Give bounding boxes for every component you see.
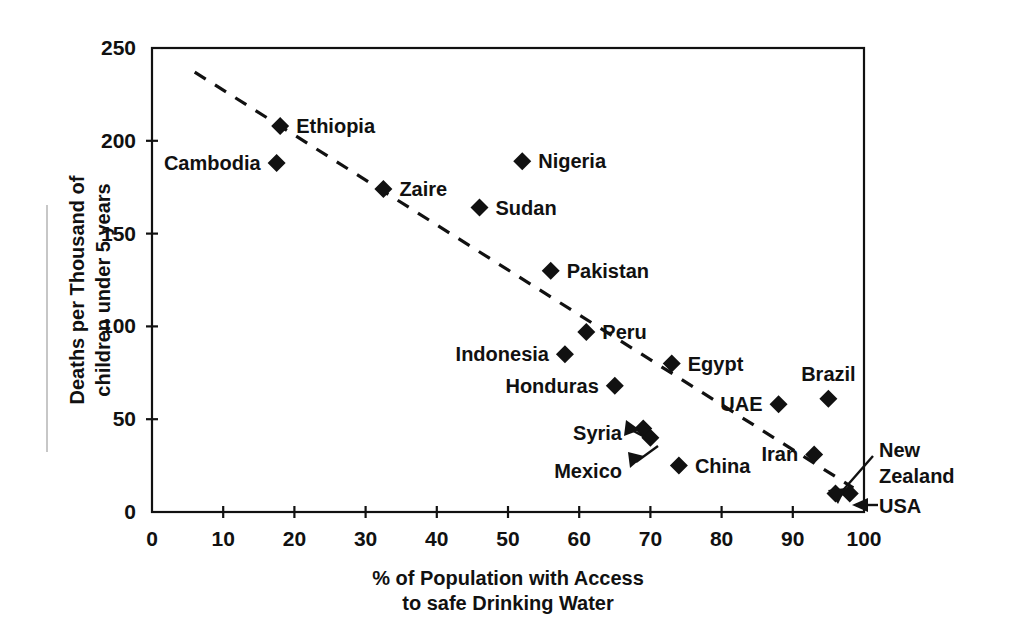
x-tick-label-80: 80	[710, 527, 733, 550]
usa-arrowhead	[852, 498, 868, 512]
data-point-marker	[577, 323, 595, 341]
data-point-label-uae: UAE	[720, 393, 762, 415]
data-point-label-mexico: Mexico	[554, 460, 622, 482]
plot-frame	[152, 48, 864, 512]
x-tick-label-60: 60	[568, 527, 591, 550]
data-point-labels: EthiopiaCambodiaNigeriaZaireSudanPakista…	[164, 115, 856, 482]
trend-line	[195, 72, 854, 488]
x-tick-label-40: 40	[425, 527, 448, 550]
y-axis-title-line2: children under 5 years	[92, 183, 114, 396]
y-axis-title-line1: Deaths per Thousand of	[66, 175, 88, 404]
data-point-label-indonesia: Indonesia	[456, 343, 550, 365]
data-point-label-honduras: Honduras	[505, 375, 598, 397]
y-tick-label-200: 200	[101, 129, 136, 152]
x-tick-label-90: 90	[781, 527, 804, 550]
data-point-label-cambodia: Cambodia	[164, 152, 262, 174]
y-tick-label-250: 250	[101, 36, 136, 59]
data-point-label-ethiopia: Ethiopia	[296, 115, 376, 137]
data-point-marker	[513, 152, 531, 170]
label-new-zealand-line1: New	[879, 439, 921, 461]
data-point-marker	[670, 457, 688, 475]
label-new-zealand-line2: Zealand	[879, 465, 955, 487]
data-point-label-sudan: Sudan	[496, 197, 557, 219]
y-tick-label-0: 0	[124, 500, 136, 523]
data-point-marker	[556, 345, 574, 363]
data-point-marker	[819, 390, 837, 408]
data-point-label-china: China	[695, 455, 751, 477]
data-point-label-pakistan: Pakistan	[567, 260, 649, 282]
data-point-label-iran: Iran	[761, 443, 798, 465]
label-usa: USA	[879, 495, 921, 517]
x-tick-label-20: 20	[283, 527, 306, 550]
data-point-label-egypt: Egypt	[688, 353, 744, 375]
label-leader-arrows	[624, 420, 878, 512]
data-point-label-nigeria: Nigeria	[538, 150, 607, 172]
data-point-marker	[542, 262, 560, 280]
x-tick-label-30: 30	[354, 527, 377, 550]
data-point-label-brazil: Brazil	[801, 363, 855, 385]
data-point-label-peru: Peru	[602, 321, 646, 343]
data-point-marker	[770, 395, 788, 413]
x-tick-label-10: 10	[212, 527, 235, 550]
data-point-marker	[841, 484, 859, 502]
data-point-label-zaire: Zaire	[399, 178, 447, 200]
x-tick-label-70: 70	[639, 527, 662, 550]
x-axis-title-line2: to safe Drinking Water	[402, 592, 614, 614]
data-point-marker	[374, 180, 392, 198]
scatter-plot: 050100150200250 0102030405060708090100 E…	[0, 0, 1011, 640]
x-tick-label-0: 0	[146, 527, 158, 550]
x-axis-title-line1: % of Population with Access	[372, 567, 644, 589]
data-point-marker	[606, 377, 624, 395]
data-point-marker	[471, 199, 489, 217]
data-point-marker	[271, 117, 289, 135]
data-point-label-syria: Syria	[573, 422, 623, 444]
y-tick-label-50: 50	[113, 407, 136, 430]
chart-figure: 050100150200250 0102030405060708090100 E…	[0, 0, 1011, 640]
mexico-arrowhead	[628, 452, 644, 468]
x-tick-label-50: 50	[496, 527, 519, 550]
data-point-marker	[268, 154, 286, 172]
x-tick-label-100: 100	[846, 527, 881, 550]
